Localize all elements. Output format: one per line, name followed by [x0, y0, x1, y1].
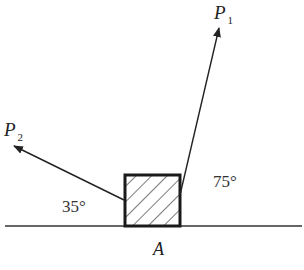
force-p2-arrow [14, 146, 124, 200]
block-label: A [152, 239, 165, 259]
angle-p2-label: 35° [62, 197, 86, 216]
force-p1-arrow [180, 28, 219, 195]
force-p2-label: P2 [3, 119, 23, 143]
angle-p1-label: 75° [213, 172, 237, 191]
block-a [125, 175, 180, 226]
force-p1-label: P1 [213, 2, 233, 26]
force-diagram: P1 P2 35° 75° A [0, 0, 304, 270]
